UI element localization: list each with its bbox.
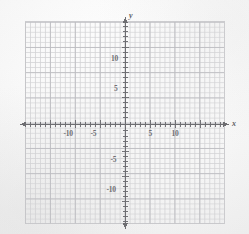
y-tick-label-5: 5 [114, 85, 118, 93]
x-axis-left-arrow [20, 122, 26, 127]
x-tick-label-neg10: -10 [64, 130, 73, 138]
y-tick-label-10: 10 [111, 55, 118, 63]
x-tick-label-10: 10 [172, 130, 179, 138]
y-axis-down-arrow [123, 223, 128, 229]
y-axis-up-arrow [123, 17, 128, 23]
x-tick-label-neg5: -5 [91, 130, 97, 138]
y-tick-label-neg5: -5 [111, 156, 117, 164]
x-tick-label-5: 5 [149, 130, 153, 138]
y-axis-name: y [129, 12, 133, 20]
x-axis-name: x [232, 120, 236, 128]
y-tick-label-neg10: -10 [107, 186, 116, 194]
x-axis-right-arrow [223, 122, 229, 127]
coordinate-grid-figure: -10 -5 5 10 10 5 -5 -10 y x [0, 0, 249, 234]
coordinate-plane-svg [0, 0, 249, 234]
